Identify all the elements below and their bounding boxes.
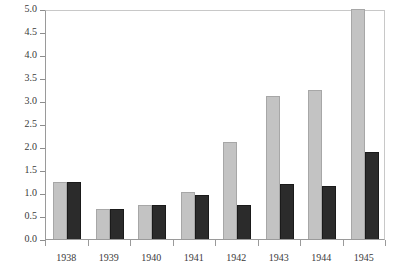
- x-axis-tick: 1942: [215, 240, 258, 275]
- x-axis-separator: [258, 240, 259, 246]
- y-axis-tick-label: 0.5: [25, 210, 38, 222]
- bar-series-dark-1944: [322, 186, 336, 239]
- y-axis-tick-label: 3.5: [25, 72, 38, 84]
- bar-series-light-1940: [138, 205, 152, 240]
- x-axis-separator: [45, 240, 46, 246]
- x-axis-tick: 1939: [88, 240, 131, 275]
- y-axis-tick-label: 2.0: [25, 141, 38, 153]
- bars-layer: [46, 11, 384, 239]
- x-axis-tick: 1945: [343, 240, 386, 275]
- x-axis-tick: 1944: [300, 240, 343, 275]
- bar-series-dark-1939: [110, 209, 124, 239]
- x-axis-tick-label: 1938: [45, 252, 88, 264]
- y-axis-tick-label: 2.5: [25, 118, 38, 130]
- y-axis-tick-label: 0.0: [25, 233, 38, 245]
- bar-series-light-1939: [96, 209, 110, 239]
- bar-series-dark-1942: [237, 205, 251, 240]
- bar-series-light-1938: [53, 182, 67, 240]
- bar-series-dark-1941: [195, 195, 209, 239]
- x-axis-separator: [215, 240, 216, 246]
- x-axis-tick-label: 1939: [88, 252, 131, 264]
- x-axis-tick-label: 1940: [130, 252, 173, 264]
- bar-chart: 0.00.51.01.52.02.53.03.54.04.55.0 193819…: [0, 0, 397, 275]
- x-axis-tick-label: 1945: [343, 252, 386, 264]
- bar-series-light-1942: [223, 142, 237, 239]
- bar-series-light-1945: [351, 9, 365, 239]
- x-axis: 19381939194019411942194319441945: [45, 240, 385, 275]
- x-axis-tick: 1941: [173, 240, 216, 275]
- plot-area: [45, 10, 385, 240]
- x-axis-tick-label: 1942: [215, 252, 258, 264]
- y-axis-tick-label: 5.0: [25, 3, 38, 15]
- x-axis-tick-label: 1944: [300, 252, 343, 264]
- bar-series-dark-1945: [365, 152, 379, 239]
- y-axis-tick-label: 4.5: [25, 26, 38, 38]
- bar-series-light-1943: [266, 96, 280, 239]
- x-axis-tick: 1938: [45, 240, 88, 275]
- x-axis-tick-label: 1941: [173, 252, 216, 264]
- x-axis-separator: [300, 240, 301, 246]
- x-axis-separator: [88, 240, 89, 246]
- y-axis-tick-label: 1.5: [25, 164, 38, 176]
- y-axis-tick-label: 1.0: [25, 187, 38, 199]
- x-axis-tick: 1943: [258, 240, 301, 275]
- x-axis-separator: [130, 240, 131, 246]
- x-axis-separator: [343, 240, 344, 246]
- y-axis-tick-label: 3.0: [25, 95, 38, 107]
- x-axis-separator: [385, 240, 386, 246]
- bar-series-dark-1938: [67, 182, 81, 240]
- x-axis-tick-label: 1943: [258, 252, 301, 264]
- bar-series-dark-1943: [280, 184, 294, 239]
- bar-series-light-1944: [308, 90, 322, 240]
- y-axis-tick-label: 4.0: [25, 49, 38, 61]
- x-axis-separator: [173, 240, 174, 246]
- bar-series-dark-1940: [152, 205, 166, 239]
- x-axis-tick: 1940: [130, 240, 173, 275]
- bar-series-light-1941: [181, 192, 195, 239]
